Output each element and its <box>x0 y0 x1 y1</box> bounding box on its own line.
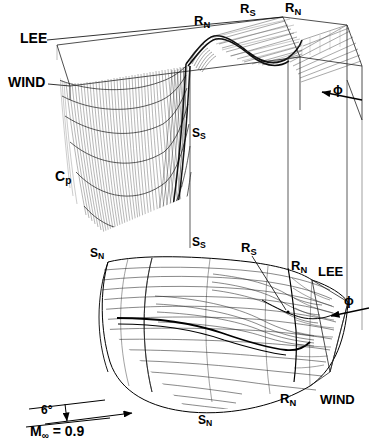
mach-main: M <box>30 423 42 439</box>
rn-main: R <box>194 13 203 28</box>
reattachment-line-rs-body <box>262 300 338 319</box>
label-sn-upper: SN <box>90 247 104 261</box>
rn-sub: N <box>294 7 301 17</box>
cp-surface-wireframe <box>59 64 191 270</box>
body-station-rings <box>121 258 312 402</box>
ss-sub: S <box>200 131 206 141</box>
reattachment-line-rn-body <box>288 268 296 382</box>
ss-main: S <box>192 126 200 140</box>
lee-fan-streamlines <box>292 278 334 368</box>
aoa-angle-tick <box>65 404 67 421</box>
ss-sub: S <box>200 240 206 250</box>
figure-root: LEE WIND Cp RN RS RN SS SS SN RS RN SN R… <box>0 0 369 448</box>
sn-sub: N <box>206 418 212 428</box>
label-rn-top-left: RN <box>194 14 210 30</box>
critical-point-markers <box>286 310 289 313</box>
label-wind-lower: WIND <box>320 393 355 406</box>
label-sn-lower: SN <box>198 414 212 428</box>
sn-main: S <box>198 413 206 427</box>
label-rn-body: RN <box>291 259 307 275</box>
label-ss-upper: SS <box>192 127 206 141</box>
rn-sub: N <box>289 398 296 408</box>
cp-plot-bounding-box <box>57 17 362 120</box>
rn-sub: N <box>203 20 210 30</box>
label-phi-upper: ϕ <box>333 83 343 96</box>
figure-drawing <box>0 0 369 448</box>
rn-main: R <box>280 391 289 406</box>
mach-value: = 0.9 <box>49 423 84 439</box>
label-incidence-angle: 6° <box>41 404 52 416</box>
rn-sub: N <box>300 265 307 275</box>
separation-line-sn <box>117 318 310 350</box>
sn-main: S <box>90 246 98 260</box>
mach-sub: ∞ <box>42 430 49 441</box>
label-rs-body: RS <box>241 241 257 257</box>
rs-sub: S <box>249 8 255 18</box>
sn-sub: N <box>98 251 104 261</box>
cp-ridge-crest-dark <box>186 36 302 66</box>
label-ss-lower: SS <box>192 236 206 250</box>
rs-leader-line <box>252 256 286 310</box>
wind-leader-line <box>48 84 70 86</box>
surface-streamlines-converging <box>155 274 322 346</box>
phi-arrow-lower <box>331 308 369 316</box>
label-phi-lower: ϕ <box>344 294 354 307</box>
rs-main: R <box>240 1 249 16</box>
rn-main: R <box>285 0 294 15</box>
label-cp-axis: Cp <box>55 169 71 186</box>
cp-sub: p <box>65 175 71 186</box>
rn-main: R <box>291 258 300 273</box>
rs-main: R <box>241 240 250 255</box>
label-mach-number: M∞ = 0.9 <box>30 424 84 441</box>
label-rs-top-mid: RS <box>240 2 256 18</box>
cp-mesh-hoops <box>59 66 191 259</box>
cp-ridge-surface <box>186 17 361 82</box>
label-rn-bottom: RN <box>280 392 296 408</box>
label-rn-top-right: RN <box>285 1 301 17</box>
label-lee-lower: LEE <box>318 265 343 278</box>
lee-leader-line <box>47 17 283 40</box>
ss-main: S <box>192 235 200 249</box>
cp-main: C <box>55 168 65 184</box>
label-wind-upper: WIND <box>8 75 45 89</box>
body-surface <box>98 256 348 413</box>
projection-lines <box>190 58 362 330</box>
rs-sub: S <box>250 247 256 257</box>
label-lee-upper: LEE <box>20 31 47 45</box>
